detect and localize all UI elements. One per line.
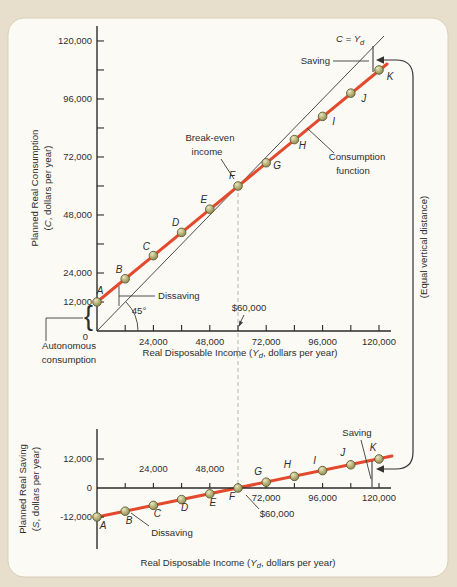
data-point-G-consumption [262, 158, 271, 167]
x-tick-label: 48,000 [195, 463, 224, 474]
x-tick-label: 24,000 [139, 336, 168, 347]
point-label-H-bottom: H [284, 459, 292, 470]
point-label-C-bottom: C [154, 508, 162, 519]
point-label-E-top: E [200, 194, 207, 205]
y-tick-label: -12,000 [60, 511, 92, 522]
data-point-H-saving [290, 472, 299, 481]
y-tick-label: 72,000 [63, 151, 92, 162]
point-label-H-top: H [299, 140, 307, 151]
sixty-thousand-label-bottom: $60,000 [260, 508, 295, 519]
point-label-B-bottom: B [126, 515, 133, 526]
data-point-B-saving [121, 507, 130, 516]
point-label-F-top: F [229, 170, 236, 181]
x-tick-label: 120,000 [362, 336, 396, 347]
point-label-G-top: G [273, 160, 281, 171]
x-tick-label: 48,000 [195, 336, 224, 347]
point-label-I-top: I [332, 116, 335, 127]
y-tick-label: 12,000 [63, 453, 92, 464]
consumption-fn-label-line1: Consumption [329, 151, 386, 162]
data-point-H-consumption [290, 135, 299, 144]
data-point-I-consumption [318, 112, 327, 121]
autonomous-brace-icon: { [84, 301, 93, 331]
data-point-J-saving [347, 460, 356, 469]
y-tick-label: 120,000 [58, 35, 92, 46]
y-tick-label: 96,000 [63, 93, 92, 104]
data-point-K-consumption [375, 66, 384, 75]
point-label-J-bottom: J [339, 447, 346, 458]
point-label-C-top: C [143, 241, 151, 252]
x-tick-label: 96,000 [308, 492, 337, 503]
y-tick-label: 24,000 [63, 267, 92, 278]
data-point-C-consumption [149, 251, 158, 260]
x-tick-label: 72,000 [252, 336, 281, 347]
figure: 24,00048,00072,00096,000120,00012,00024,… [0, 0, 457, 587]
point-label-D-bottom: D [181, 502, 188, 513]
break-even-label-line1: Break-even [185, 132, 234, 143]
data-point-B-consumption [121, 274, 130, 283]
sixty-thousand-label-top: $60,000 [232, 302, 267, 313]
saving-label-top: Saving [301, 55, 330, 66]
autonomous-label-line2: consumption [42, 354, 96, 365]
point-label-D-top: D [172, 217, 179, 228]
data-point-K-saving [375, 455, 384, 464]
consumption-fn-label-line2: function [336, 165, 370, 176]
data-point-J-consumption [347, 89, 356, 98]
data-point-G-saving [262, 478, 271, 487]
point-label-B-top: B [116, 264, 123, 275]
x-tick-label: 72,000 [252, 492, 281, 503]
point-label-J-top: J [360, 93, 367, 104]
data-point-E-consumption [206, 205, 215, 214]
equal-vertical-distance-label: (Equal vertical distance) [418, 196, 429, 298]
y-tick-label: 48,000 [63, 209, 92, 220]
y-tick-label: 0 [87, 482, 92, 493]
45-degree-label: 45° [132, 305, 147, 316]
dissaving-label-bottom: Dissaving [151, 527, 193, 538]
point-label-A-bottom: A [99, 520, 107, 531]
break-even-label-line2: income [192, 146, 223, 157]
data-point-A-consumption [93, 298, 102, 307]
point-label-I-bottom: I [313, 455, 316, 466]
top-y-axis-title-line2: (C, dollars per year) [42, 146, 53, 231]
dissaving-label-top: Dissaving [158, 290, 200, 301]
point-label-F-bottom: F [229, 491, 236, 502]
data-point-F-consumption [234, 182, 243, 191]
autonomous-label-line1: Autonomous [42, 340, 96, 351]
top-y-axis-title-line1: Planned Real Consumption [29, 130, 40, 247]
x-tick-label: 24,000 [139, 463, 168, 474]
saving-label-bottom: Saving [342, 427, 371, 438]
point-label-A-top: A [96, 285, 104, 296]
point-label-E-bottom: E [209, 497, 216, 508]
data-point-I-saving [318, 466, 327, 475]
data-point-D-consumption [177, 228, 186, 237]
x-tick-label: 120,000 [362, 492, 396, 503]
bottom-y-axis-title-line2: (S, dollars per year) [30, 447, 41, 531]
bottom-y-axis-title-line1: Planned Real Saving [17, 444, 28, 534]
x-tick-label: 96,000 [308, 336, 337, 347]
point-label-G-bottom: G [254, 466, 262, 477]
